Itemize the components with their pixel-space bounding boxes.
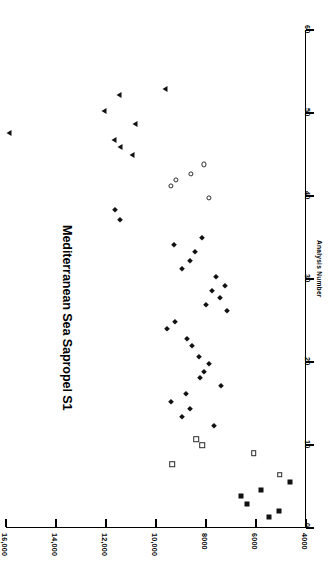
data-point-open-square <box>251 451 257 457</box>
data-point-filled-diamond <box>200 369 206 375</box>
value-tick <box>5 519 6 527</box>
data-point-open-circle <box>201 162 206 167</box>
data-point-filled-triangle <box>6 130 11 136</box>
data-point-filled-triangle <box>116 92 121 98</box>
data-point-filled-diamond <box>168 399 174 405</box>
data-point-filled-diamond <box>179 414 185 420</box>
analysis-tick-label: 20 <box>303 357 312 365</box>
data-point-filled-diamond <box>205 361 211 367</box>
data-point-filled-triangle <box>132 121 137 127</box>
data-point-filled-diamond <box>179 266 185 272</box>
analysis-tick-label: 50 <box>303 108 312 116</box>
chart-title: Mediterranean Sea Sapropel S1 <box>60 225 74 410</box>
data-point-filled-triangle <box>162 86 167 92</box>
analysis-tick <box>306 527 314 528</box>
data-point-open-circle <box>168 183 173 188</box>
data-point-filled-diamond <box>213 273 219 279</box>
data-point-filled-diamond <box>187 258 193 264</box>
data-point-filled-diamond <box>195 354 201 360</box>
data-point-filled-square <box>287 479 292 484</box>
value-tick <box>105 519 106 527</box>
data-point-filled-square <box>276 508 281 513</box>
data-point-filled-triangle <box>111 137 116 143</box>
analysis-tick-label: 0 <box>303 523 312 527</box>
value-tick <box>205 519 206 527</box>
value-tick-label: 4000 <box>300 533 309 550</box>
value-tick <box>255 519 256 527</box>
data-point-filled-diamond <box>117 217 123 223</box>
data-point-open-square <box>193 436 199 442</box>
data-point-filled-triangle <box>130 152 135 158</box>
data-point-filled-square <box>245 501 250 506</box>
data-point-filled-diamond <box>183 390 189 396</box>
data-point-filled-diamond <box>112 207 118 213</box>
data-point-open-square <box>277 472 283 478</box>
value-tick-label: 14,000 <box>50 533 59 556</box>
data-point-filled-diamond <box>170 242 176 248</box>
analysis-tick-label: 30 <box>303 274 312 282</box>
data-point-filled-diamond <box>172 319 178 325</box>
data-point-filled-diamond <box>203 302 209 308</box>
value-tick-label: 16,000 <box>0 533 9 556</box>
scatter-chart-figure: 40006000800010,00012,00014,00016,000 010… <box>0 0 331 563</box>
value-tick-label: 8000 <box>200 533 209 550</box>
analysis-tick-label: 60 <box>303 25 312 33</box>
analysis-tick-label: 40 <box>303 191 312 199</box>
data-point-filled-diamond <box>192 249 198 255</box>
data-point-filled-square <box>266 515 271 520</box>
value-tick-label: 6000 <box>250 533 259 550</box>
data-point-filled-diamond <box>189 343 195 349</box>
data-point-filled-diamond <box>187 406 193 412</box>
plot-area <box>0 0 331 563</box>
data-point-filled-square <box>259 487 264 492</box>
data-point-filled-triangle <box>117 144 122 150</box>
data-point-filled-diamond <box>197 375 203 381</box>
data-point-filled-triangle <box>101 108 106 114</box>
analysis-tick-label: 10 <box>303 440 312 448</box>
data-point-filled-diamond <box>209 288 215 294</box>
data-point-filled-diamond <box>217 295 223 301</box>
data-point-filled-diamond <box>224 308 230 314</box>
data-point-filled-diamond <box>218 383 224 389</box>
data-point-open-circle <box>173 178 178 183</box>
data-point-open-circle <box>188 171 193 176</box>
x-axis-title: Analysis Number <box>316 240 323 298</box>
data-point-open-square <box>169 461 175 467</box>
data-point-filled-diamond <box>210 423 216 429</box>
data-point-filled-square <box>239 493 244 498</box>
data-point-filled-diamond <box>222 283 228 289</box>
data-point-filled-diamond <box>164 326 170 332</box>
value-tick <box>155 519 156 527</box>
value-tick-label: 10,000 <box>150 533 159 556</box>
value-tick-label: 12,000 <box>100 533 109 556</box>
value-tick <box>55 519 56 527</box>
data-point-filled-diamond <box>199 235 205 241</box>
data-point-filled-diamond <box>184 336 190 342</box>
data-point-open-circle <box>206 195 211 200</box>
value-axis-line <box>6 527 306 528</box>
data-point-open-square <box>199 442 205 448</box>
